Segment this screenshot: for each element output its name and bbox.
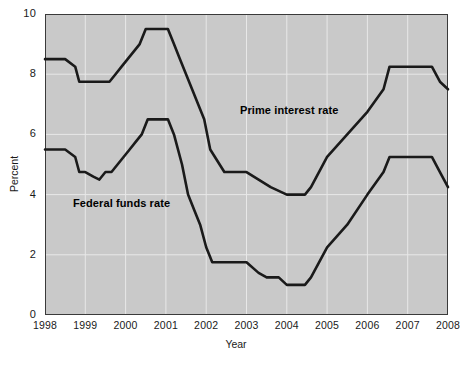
x-tick-2004: 2004 xyxy=(266,319,308,331)
x-axis-title: Year xyxy=(206,338,266,350)
y-tick-6: 6 xyxy=(4,127,36,139)
x-tick-2005: 2005 xyxy=(306,319,348,331)
x-tick-2007: 2007 xyxy=(387,319,429,331)
x-tick-1999: 1999 xyxy=(64,319,106,331)
plot-area xyxy=(45,14,448,315)
interest-rate-line-chart: 0246810 19981999200020012002200320042005… xyxy=(0,0,472,367)
x-tick-2002: 2002 xyxy=(185,319,227,331)
y-tick-8: 8 xyxy=(4,67,36,79)
x-tick-2006: 2006 xyxy=(346,319,388,331)
x-tick-2001: 2001 xyxy=(145,319,187,331)
x-tick-2008: 2008 xyxy=(427,319,469,331)
y-tick-10: 10 xyxy=(4,7,36,19)
y-axis-title: Percent xyxy=(8,144,20,204)
x-tick-2003: 2003 xyxy=(226,319,268,331)
y-tick-2: 2 xyxy=(4,248,36,260)
prime-interest-rate-label: Prime interest rate xyxy=(240,104,339,116)
x-tick-1998: 1998 xyxy=(24,319,66,331)
federal-funds-rate-label: Federal funds rate xyxy=(73,197,170,209)
x-tick-2000: 2000 xyxy=(105,319,147,331)
